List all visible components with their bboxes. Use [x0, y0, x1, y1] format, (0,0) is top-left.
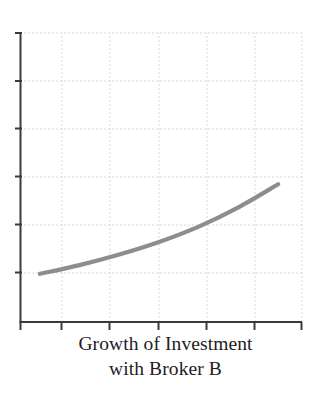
x-axis-ticks — [21, 322, 302, 330]
chart-figure: Growth of Investment with Broker B — [0, 0, 331, 393]
chart-title: Growth of Investment with Broker B — [0, 331, 331, 381]
gridline-v-5 — [255, 33, 256, 322]
chart-title-line-1: Growth of Investment — [0, 331, 331, 356]
gridline-v-6 — [302, 33, 303, 322]
gridline-v-3 — [159, 33, 160, 322]
gridline-v-4 — [207, 33, 208, 322]
gridline-v-1 — [62, 33, 63, 322]
chart-title-line-2: with Broker B — [0, 356, 331, 381]
gridline-v-2 — [110, 33, 111, 322]
